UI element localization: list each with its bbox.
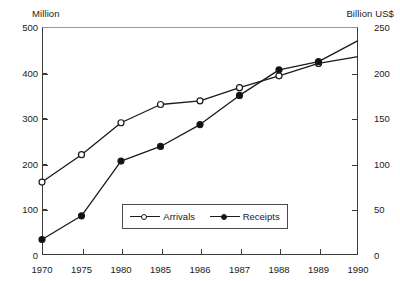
data-point-receipts — [79, 213, 85, 219]
data-point-receipts — [39, 237, 45, 243]
data-point-arrivals — [276, 73, 282, 79]
data-point-arrivals — [237, 85, 243, 91]
legend-item-arrivals: Arrivals — [130, 211, 195, 222]
series-layer — [0, 0, 400, 281]
data-point-receipts — [197, 122, 203, 128]
data-point-arrivals — [197, 98, 203, 104]
data-point-receipts — [158, 143, 164, 149]
data-point-receipts — [237, 92, 243, 98]
data-point-arrivals — [79, 152, 85, 158]
data-point-arrivals — [118, 120, 124, 126]
data-point-receipts — [316, 59, 322, 65]
legend-label-receipts: Receipts — [243, 211, 280, 222]
chart-legend: Arrivals Receipts — [122, 204, 288, 229]
data-point-arrivals — [158, 102, 164, 108]
legend-line-receipts-icon — [210, 212, 240, 221]
data-point-receipts — [118, 158, 124, 164]
legend-line-arrivals-icon — [130, 212, 160, 221]
legend-label-arrivals: Arrivals — [163, 211, 195, 222]
series-line-arrivals — [42, 57, 358, 182]
data-point-receipts — [276, 67, 282, 73]
data-point-arrivals — [39, 179, 45, 185]
chart-container: Million Billion US$ 0100200300400500 050… — [0, 0, 400, 281]
legend-item-receipts: Receipts — [210, 211, 280, 222]
